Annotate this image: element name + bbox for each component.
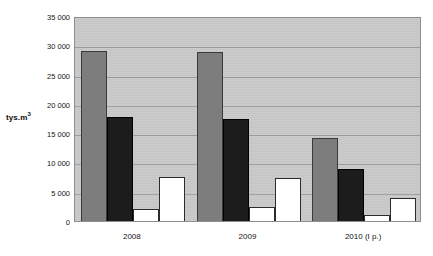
bars-layer — [75, 18, 420, 221]
y-axis-tick-6: 30 000 — [28, 42, 70, 51]
y-axis-tick-1: 5 000 — [28, 188, 70, 197]
y-axis-tick-7: 35 000 — [28, 13, 70, 22]
bar-group-2009 — [197, 18, 301, 221]
y-axis-tick-5: 25 000 — [28, 71, 70, 80]
y-axis-tick-2: 10 000 — [28, 159, 70, 168]
bar-group-2010-i-p — [312, 18, 416, 221]
x-axis-tick-labels: 200820092010 (I p.) — [74, 232, 421, 248]
bar-2008-series-1 — [81, 51, 107, 221]
y-axis-tick-labels: 05 00010 00015 00020 00025 00030 00035 0… — [28, 17, 70, 222]
bar-2010-i-p-series-2 — [338, 169, 364, 221]
bar-2009-series-3 — [249, 207, 275, 221]
bar-2009-series-4 — [275, 178, 301, 221]
bar-2008-series-4 — [159, 177, 185, 222]
y-axis-tick-3: 15 000 — [28, 130, 70, 139]
x-axis-tick-2: 2010 (I p.) — [345, 232, 381, 241]
y-axis-tick-4: 20 000 — [28, 100, 70, 109]
bar-2009-series-2 — [223, 119, 249, 221]
bar-2010-i-p-series-4 — [390, 198, 416, 221]
x-axis-tick-1: 2009 — [239, 232, 257, 241]
bar-group-2008 — [81, 18, 185, 221]
bar-2009-series-1 — [197, 52, 223, 221]
bar-2010-i-p-series-3 — [364, 215, 390, 221]
y-axis-tick-0: 0 — [28, 218, 70, 227]
bar-2008-series-3 — [133, 209, 159, 221]
bar-2010-i-p-series-1 — [312, 138, 338, 221]
bar-2008-series-2 — [107, 117, 133, 221]
plot-area — [74, 17, 421, 222]
y-axis-title-text: tys.m — [6, 113, 27, 122]
x-axis-tick-0: 2008 — [123, 232, 141, 241]
bar-chart-figure: tys.m3 05 00010 00015 00020 00025 00030 … — [0, 0, 433, 256]
